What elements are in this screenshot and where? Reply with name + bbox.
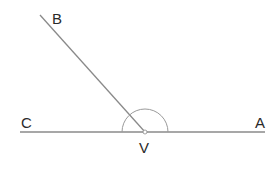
label-b: B bbox=[52, 10, 62, 27]
vertex-point bbox=[143, 130, 147, 134]
ray-vb bbox=[40, 15, 145, 132]
label-c: C bbox=[21, 114, 32, 131]
angle-diagram: B C A V bbox=[0, 0, 279, 196]
label-a: A bbox=[255, 114, 265, 131]
angle-arc bbox=[122, 109, 168, 132]
label-v: V bbox=[139, 139, 149, 156]
